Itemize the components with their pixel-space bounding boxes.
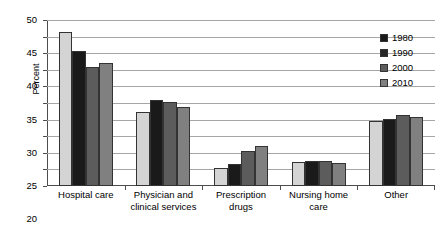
x-axis-category-label-line: Physician and [125, 189, 203, 201]
y-axis-tick: 50 [43, 20, 47, 21]
y-axis-tick: 15 [43, 136, 47, 137]
bar [319, 161, 333, 186]
legend-label: 2010 [392, 78, 413, 88]
bar-chart: Percent 05101520253035404550 Hospital ca… [0, 0, 442, 233]
x-axis-category-label: Prescriptiondrugs [202, 189, 280, 212]
x-axis-labels: Hospital carePhysician andclinical servi… [47, 189, 435, 229]
bar [369, 121, 383, 186]
legend-label: 1990 [392, 48, 413, 58]
bar-group [59, 20, 113, 186]
y-axis-tick: 35 [43, 70, 47, 71]
bar [177, 107, 191, 186]
y-axis-tick-label: 30 [26, 148, 37, 158]
bar [59, 32, 73, 186]
bar [332, 163, 346, 186]
bar [163, 102, 177, 186]
bar [292, 162, 306, 186]
legend-item[interactable]: 2010 [380, 75, 438, 90]
bar [410, 117, 424, 186]
y-axis-tick: 25 [43, 103, 47, 104]
y-axis-tick: 0 [43, 186, 47, 187]
legend-label: 2000 [392, 63, 413, 73]
y-axis-tick-label: 20 [26, 214, 37, 224]
bar [305, 161, 319, 186]
y-axis-tick: 20 [43, 120, 47, 121]
legend: 1980199020002010 [380, 30, 438, 90]
y-axis-tick: 5 [43, 169, 47, 170]
y-axis-tick-label: 40 [26, 81, 37, 91]
x-axis-category-label: Hospital care [47, 189, 125, 201]
legend-item[interactable]: 1980 [380, 30, 438, 45]
bar [241, 151, 255, 186]
y-axis-tick: 10 [43, 153, 47, 154]
bar [228, 164, 242, 186]
y-axis-tick-label: 45 [26, 48, 37, 58]
x-axis-category-label: Physician andclinical services [125, 189, 203, 212]
bar-group [214, 20, 268, 186]
y-axis-tick-label: 25 [26, 181, 37, 191]
y-axis-tick: 30 [43, 86, 47, 87]
x-axis-category-label: Nursing homecare [280, 189, 358, 212]
x-axis-category-label-line: Hospital care [47, 189, 125, 201]
x-axis-category-label-line: Prescription [202, 189, 280, 201]
legend-label: 1980 [392, 33, 413, 43]
x-axis-category-label: Other [357, 189, 435, 201]
legend-swatch-icon [380, 64, 388, 72]
x-axis-category-label-line: Nursing home [280, 189, 358, 201]
bar [255, 146, 269, 186]
bar [136, 112, 150, 186]
legend-item[interactable]: 2000 [380, 60, 438, 75]
y-axis-tick-label: 50 [26, 15, 37, 25]
bar [150, 100, 164, 186]
bar-group [292, 20, 346, 186]
bar [72, 51, 86, 186]
bar [86, 67, 100, 186]
y-axis-tick: 40 [43, 53, 47, 54]
legend-swatch-icon [380, 79, 388, 87]
x-axis-category-label-line: Other [357, 189, 435, 201]
y-axis-tick-label: 35 [26, 115, 37, 125]
bar [396, 115, 410, 186]
legend-swatch-icon [380, 34, 388, 42]
y-axis-tick: 45 [43, 37, 47, 38]
legend-swatch-icon [380, 49, 388, 57]
bar [383, 119, 397, 186]
x-axis-category-label-line: care [280, 201, 358, 213]
bar-group [136, 20, 190, 186]
bar [214, 168, 228, 186]
plot-area: 05101520253035404550 [47, 20, 435, 186]
x-axis-category-label-line: clinical services [125, 201, 203, 213]
x-axis-category-label-line: drugs [202, 201, 280, 213]
bar [99, 63, 113, 187]
legend-item[interactable]: 1990 [380, 45, 438, 60]
